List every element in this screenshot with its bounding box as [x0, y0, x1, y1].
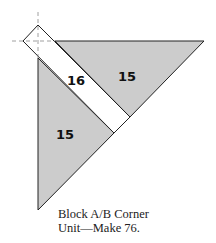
left-triangle-label: 15: [56, 127, 74, 142]
caption-line-2: Unit—Make 76.: [58, 221, 149, 235]
caption: Block A/B Corner Unit—Make 76.: [58, 207, 149, 235]
strip-label: 16: [67, 73, 85, 88]
caption-line-1: Block A/B Corner: [58, 207, 149, 221]
top-triangle-label: 15: [118, 69, 136, 84]
